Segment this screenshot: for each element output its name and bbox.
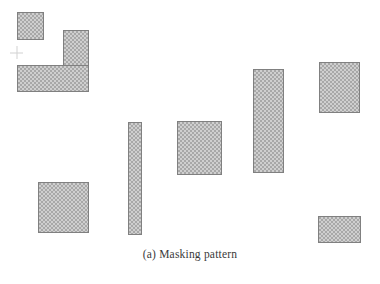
masking-pattern-figure: (a)Masking pattern — [0, 0, 380, 284]
figure-caption-label: (a) — [143, 248, 156, 260]
mask-block-bottom-left-square — [38, 182, 89, 233]
mask-block-right-upper-square — [319, 62, 360, 113]
mask-block-top-left-small-square — [17, 12, 44, 40]
figure-caption-text: Masking pattern — [159, 248, 237, 260]
crosshair-vertical-stroke — [16, 46, 17, 59]
mask-block-upper-left-horizontal-bar — [17, 65, 89, 92]
mask-block-center-thin-vertical-bar — [128, 122, 142, 235]
mask-block-bottom-right-rectangle — [318, 216, 361, 243]
masking-pattern-canvas — [0, 0, 380, 250]
figure-caption: (a)Masking pattern — [0, 248, 380, 260]
mask-block-center-tall-vertical-bar — [253, 69, 284, 173]
mask-block-center-square — [177, 121, 222, 175]
crosshair-marker-icon — [10, 46, 23, 59]
